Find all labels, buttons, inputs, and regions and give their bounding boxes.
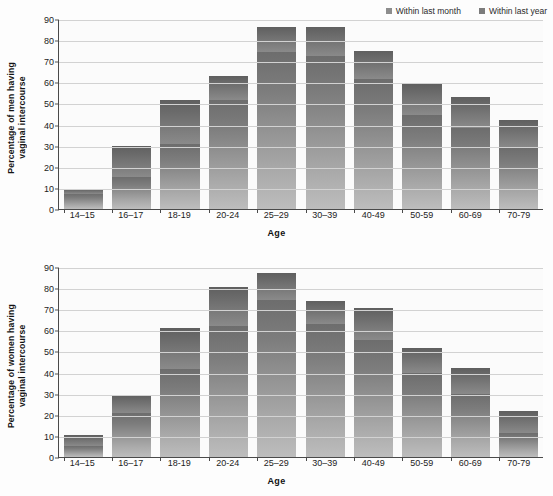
y-tick-label: 20 (44, 163, 54, 173)
bar-segment-within-last-year (354, 308, 393, 340)
x-tick-label: 25–29 (257, 458, 296, 472)
y-axis-ticks-women: 0102030405060708090 (32, 268, 54, 458)
bar-segment-within-last-month (64, 446, 103, 457)
x-tick-label: 20-24 (208, 210, 247, 224)
x-tick-label: 18-19 (160, 458, 199, 472)
bar-segment-within-last-year (354, 51, 393, 80)
gridline (59, 352, 543, 353)
bar-segment-within-last-month (402, 115, 441, 209)
bar-column (112, 268, 151, 457)
gridline (59, 416, 543, 417)
bar-column (257, 268, 296, 457)
bar-segment-within-last-year (451, 97, 490, 128)
bar-column (209, 20, 248, 209)
bar-group-women (59, 268, 543, 457)
gridline (59, 104, 543, 105)
gridline (59, 168, 543, 169)
y-tick-label: 40 (44, 121, 54, 131)
bar-column (306, 268, 345, 457)
bar-column (451, 268, 490, 457)
bar-segment-within-last-year (160, 100, 199, 143)
x-tick-label: 14–15 (63, 458, 102, 472)
x-tick-label: 40-49 (354, 458, 393, 472)
gridline (59, 437, 543, 438)
bar-segment-within-last-month (112, 413, 151, 457)
y-tick-label: 70 (44, 305, 54, 315)
gridline (59, 189, 543, 190)
y-tick-label: 50 (44, 99, 54, 109)
x-tick-label: 70-79 (499, 210, 538, 224)
bar-segment-within-last-month (306, 56, 345, 209)
bar-column (160, 268, 199, 457)
bar-column (64, 268, 103, 457)
y-tick-label: 80 (44, 36, 54, 46)
chart-men: Percentage of men having vaginal interco… (0, 0, 553, 248)
bar-segment-within-last-month (64, 194, 103, 209)
y-tick-label: 30 (44, 390, 54, 400)
y-axis-title-men: Percentage of men having vaginal interco… (6, 28, 28, 208)
bar-segment-within-last-year (451, 368, 490, 393)
gridline (59, 147, 543, 148)
y-tick-label: 60 (44, 326, 54, 336)
y-tick-label: 20 (44, 411, 54, 421)
bar-column (64, 20, 103, 209)
x-tick-label: 20-24 (208, 458, 247, 472)
bar-column (209, 268, 248, 457)
gridline (59, 395, 543, 396)
bar-segment-within-last-month (257, 300, 296, 457)
y-tick-label: 70 (44, 57, 54, 67)
bar-segment-within-last-year (257, 273, 296, 299)
x-tick-label: 30–39 (305, 210, 344, 224)
y-tick-label: 90 (44, 15, 54, 25)
y-tick-label: 40 (44, 369, 54, 379)
bar-column (160, 20, 199, 209)
bar-column (354, 20, 393, 209)
x-tick-label: 16–17 (111, 458, 150, 472)
bar-group-men (59, 20, 543, 209)
gridline (59, 331, 543, 332)
x-tick-label: 70-79 (499, 458, 538, 472)
x-tick-label: 30–39 (305, 458, 344, 472)
x-tick-label: 16–17 (111, 210, 150, 224)
gridline (59, 374, 543, 375)
bar-column (499, 268, 538, 457)
bar-segment-within-last-year (499, 120, 538, 147)
x-axis-ticks-men: 14–1516–1718-1920-2425–2930–3940-4950-59… (58, 210, 543, 224)
bar-segment-within-last-month (160, 369, 199, 457)
plot-canvas-women (58, 268, 543, 458)
bar-column (354, 268, 393, 457)
bar-column (402, 20, 441, 209)
x-tick-label: 60-69 (451, 210, 490, 224)
x-tick-label: 50-59 (402, 210, 441, 224)
chart-page: Within last month Within last year Perce… (0, 0, 553, 496)
bar-segment-within-last-month (499, 148, 538, 209)
gridline (59, 83, 543, 84)
bar-column (306, 20, 345, 209)
x-tick-label: 60-69 (451, 458, 490, 472)
x-axis-title-men: Age (0, 228, 553, 238)
y-tick-label: 80 (44, 284, 54, 294)
bar-column (112, 20, 151, 209)
x-tick-label: 50-59 (402, 458, 441, 472)
gridline (59, 289, 543, 290)
plot-area-men: 0102030405060708090 (32, 20, 543, 210)
bar-segment-within-last-year (306, 301, 345, 324)
gridline (59, 268, 543, 269)
bar-segment-within-last-month (209, 100, 248, 209)
bar-column (451, 20, 490, 209)
bar-segment-within-last-month (160, 144, 199, 209)
bar-segment-within-last-year (112, 146, 151, 178)
bar-column (402, 268, 441, 457)
x-tick-label: 25–29 (257, 210, 296, 224)
x-axis-title-women: Age (0, 476, 553, 486)
x-tick-label: 40-49 (354, 210, 393, 224)
gridline (59, 310, 543, 311)
bar-segment-within-last-month (112, 177, 151, 209)
y-tick-label: 50 (44, 347, 54, 357)
bar-segment-within-last-year (257, 27, 296, 51)
y-tick-label: 0 (49, 453, 54, 463)
x-tick-label: 18-19 (160, 210, 199, 224)
gridline (59, 20, 543, 21)
y-tick-label: 10 (44, 432, 54, 442)
y-tick-label: 30 (44, 142, 54, 152)
